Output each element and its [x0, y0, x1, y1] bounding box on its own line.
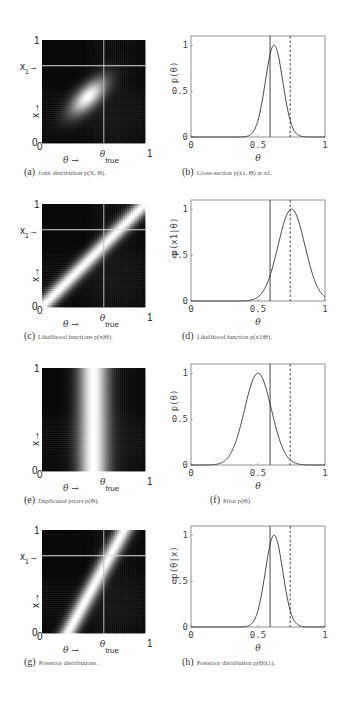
y-tick: 1 — [183, 40, 188, 50]
panel-h-posterior-plot: 000.50.511θp(θ|x) — [170, 520, 349, 650]
theta-true-label: θtrue — [100, 313, 120, 329]
caption-b: (b)Cross-section p(x1, Θ) at x1. — [182, 166, 272, 177]
caption-h: (h)Posterior distribution p(Θ|x1). — [182, 656, 275, 667]
heatmap-image — [42, 368, 145, 471]
x-tick-right: 1 — [147, 476, 153, 487]
panel-g-posterior-heatmap: x1→1001θ →θtruex→ — [0, 520, 170, 650]
y-tick: 0 — [183, 460, 188, 470]
theta-true-label: θtrue — [100, 639, 120, 655]
curve-posterior — [191, 535, 325, 627]
x-tick: 0 — [188, 630, 193, 640]
x-tick: 1 — [322, 140, 327, 150]
y-tick-top: 1 — [34, 363, 40, 374]
y-axis-label: p(x1|θ) — [169, 218, 179, 256]
x-tick-left: 0 — [37, 305, 43, 316]
curve-likelihood — [191, 209, 325, 301]
y-tick: 0 — [183, 132, 188, 142]
x1-label: x1→ — [20, 551, 38, 565]
x-axis-label: x→ — [30, 103, 41, 118]
y-tick: 0 — [183, 622, 188, 632]
heatmap-image — [42, 40, 145, 143]
theta-axis-label: θ → — [63, 155, 79, 165]
y-tick: 1 — [183, 368, 188, 378]
x-tick-left: 0 — [37, 469, 43, 480]
panel-d-likelihood-plot: 000.50.511θp(x1|θ) — [170, 194, 349, 324]
x-tick-left: 0 — [37, 631, 43, 642]
x-tick: 1 — [322, 468, 327, 478]
theta-axis-label: θ → — [63, 483, 79, 493]
x-tick-right: 1 — [147, 638, 153, 649]
axes-box — [191, 364, 325, 465]
x1-label: x1→ — [20, 61, 38, 75]
y-tick-top: 1 — [34, 525, 40, 536]
panel-c-likelihood-heatmap: x1→1001θ →θtruex→ — [0, 194, 170, 324]
panel-b-cross-section-plot: 000.50.511θp(θ) — [170, 30, 349, 160]
caption-c: (c)Likelihood functions p(x|Θ). — [24, 330, 113, 341]
panel-f-prior-plot: 000.50.511θp(θ) — [170, 358, 349, 488]
theta-true-label: θtrue — [100, 477, 120, 493]
y-axis-label: p(θ|x) — [169, 546, 179, 579]
theta-true-label: θtrue — [100, 149, 120, 165]
y-tick-top: 1 — [34, 199, 40, 210]
x-axis-label: θ — [255, 317, 261, 327]
axes-box — [191, 200, 325, 301]
caption-d: (d)Likelihood function p(x1|Θ). — [182, 330, 272, 341]
x-tick: 1 — [322, 304, 327, 314]
y-tick: 0 — [183, 296, 188, 306]
curve-prior — [191, 373, 325, 465]
x-tick: 0.5 — [250, 304, 266, 314]
caption-f: (f)Prior p(Θ). — [210, 494, 252, 505]
theta-axis-label: θ → — [63, 319, 79, 329]
x-tick-right: 1 — [147, 148, 153, 159]
y-tick-top: 1 — [34, 35, 40, 46]
y-axis-label: p(θ) — [169, 62, 179, 84]
x-tick: 0 — [188, 140, 193, 150]
y-tick: 1 — [183, 204, 188, 214]
y-axis-label: p(θ) — [169, 390, 179, 412]
x-tick-left: 0 — [37, 141, 43, 152]
caption-e: (e)Duplicated priors p(Θ). — [24, 494, 99, 505]
x-tick-right: 1 — [147, 312, 153, 323]
caption-g: (g)Posterior distributions . — [24, 656, 100, 667]
x-axis-label: θ — [255, 153, 261, 163]
x-tick: 0.5 — [250, 468, 266, 478]
x1-label: x1→ — [20, 225, 38, 239]
panel-e-prior-heatmap: 1001θ →θtruex→ — [0, 358, 170, 488]
x-tick: 0 — [188, 304, 193, 314]
x-axis-label: x→ — [30, 593, 41, 608]
x-tick: 0.5 — [250, 140, 266, 150]
x-tick: 0.5 — [250, 630, 266, 640]
y-tick: 0.5 — [172, 414, 188, 424]
caption-a: (a)Joint distribution p(X, Θ). — [24, 166, 106, 177]
x-axis-label: θ — [255, 643, 261, 653]
x-axis-label: θ — [255, 481, 261, 491]
x-axis-label: x→ — [30, 267, 41, 282]
x-tick: 0 — [188, 468, 193, 478]
heatmap-image — [42, 204, 145, 307]
heatmap-image — [42, 530, 145, 633]
y-tick: 0.5 — [172, 86, 188, 96]
x-axis-label: x→ — [30, 431, 41, 446]
x-tick: 1 — [322, 630, 327, 640]
curve-cross-section — [191, 45, 325, 137]
y-tick: 1 — [183, 530, 188, 540]
theta-axis-label: θ → — [63, 645, 79, 655]
panel-a-joint-heatmap: x1→1001θ →θtruex→ — [0, 30, 170, 160]
